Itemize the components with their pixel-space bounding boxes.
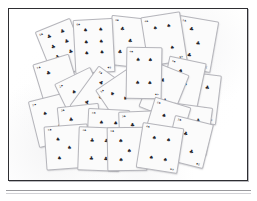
card-index-bottom-right: 2♣ (196, 161, 201, 165)
card-pip: ♣ (50, 44, 56, 51)
card-pip: ♣ (188, 149, 194, 155)
card-pip: ♠ (57, 156, 62, 162)
card-index-top-left: 2♣ (177, 120, 182, 124)
card-pip: ♣ (46, 34, 52, 41)
card-face: ♠♠♠♠♠♠6♠6♠ (74, 19, 115, 73)
card-pip: ♣ (46, 70, 52, 76)
playing-card: ♠♠♠♠♠♠6♠6♠ (73, 18, 116, 74)
card-pip: ♠ (113, 121, 118, 126)
card-pip: ♠ (163, 157, 168, 163)
card-index-top-left: 3♣ (122, 116, 126, 119)
card-face: ♠♠♠♠4♠4♠ (127, 48, 162, 99)
card-pip: ♠ (148, 80, 153, 85)
card-pip: ♣ (90, 138, 95, 143)
card-index-top-left: 3♠ (110, 131, 114, 134)
card-pip: ♠ (136, 57, 141, 62)
figure-root: ♣♣♣♣♣♣6♣6♣♠♠♠♠♠♠6♠6♠♣♣♣3♣3♣♠♠♠♠4♠4♠♣♣♣3♣… (0, 0, 257, 201)
card-pip: ♣ (69, 117, 74, 123)
card-index-top-left: 2♠ (59, 85, 64, 89)
card-index-top-left: 4♠ (146, 127, 150, 130)
card-index-top-left: 3♠ (171, 61, 175, 64)
card-index-top-left: 4♣ (82, 130, 86, 133)
photo-canvas: ♣♣♣♣♣♣6♣6♣♠♠♠♠♠♠6♠6♠♣♣♣3♣3♣♠♠♠♠4♠4♠♣♣♣3♣… (9, 9, 247, 180)
card-pip: ♠ (99, 120, 104, 125)
card-pip: ♠ (83, 28, 88, 33)
card-pip: ♠ (166, 24, 171, 30)
card-index-bottom-right: 6♠ (107, 65, 111, 68)
card-index-bottom-right: 4♠ (155, 92, 159, 95)
card-pip: ♠ (149, 154, 154, 160)
card-pip: ♠ (152, 135, 157, 141)
card-pip: ♠ (42, 110, 48, 116)
card-pip: ♠ (161, 113, 167, 119)
card-index-top-left: 2♠ (156, 102, 161, 106)
card-pip: ♠ (170, 44, 175, 50)
card-pip: ♣ (128, 38, 133, 44)
card-pip: ♣ (195, 41, 200, 47)
card-index-top-left: 4♠ (92, 112, 96, 115)
card-index-top-left: 3♣ (115, 20, 119, 23)
card-index-top-left: 3♠ (48, 130, 52, 133)
card-index-top-left: 2♣ (37, 67, 42, 71)
card-pip: ♠ (99, 39, 104, 44)
card-pip: ♣ (118, 49, 123, 55)
card-pip: ♠ (119, 157, 124, 162)
card-pip: ♠ (127, 148, 132, 153)
card-index-top-left: 4♠ (145, 21, 149, 24)
card-pip: ♠ (118, 138, 123, 143)
card-index-bottom-right: 4♠ (170, 166, 174, 169)
playing-card: ♠♠♠♠4♠4♠ (126, 47, 163, 100)
card-face: ♠♠♠♠4♠4♠ (137, 123, 183, 173)
card-pip: ♣ (64, 38, 70, 45)
card-pip: ♠ (84, 51, 89, 56)
card-pip: ♠ (153, 26, 158, 32)
card-pip: ♠ (148, 57, 153, 62)
card-pip: ♠ (67, 145, 72, 151)
card-index-top-left: 5♣ (98, 71, 103, 76)
card-pip: ♠ (166, 137, 171, 143)
card-pip: ♠ (135, 80, 140, 85)
card-pip: ♠ (109, 91, 116, 98)
card-index-top-left: 3♠ (100, 90, 105, 94)
card-pip: ♠ (56, 136, 61, 142)
card-index-top-left: 3♣ (61, 111, 65, 114)
card-pip: ♠ (100, 50, 105, 55)
bottom-rule (6, 190, 251, 191)
card-index-top-left: 6♣ (39, 34, 44, 38)
card-pip: ♣ (60, 28, 66, 35)
card-pip: ♣ (89, 156, 94, 161)
playing-card: ♠♠♠♠4♠4♠ (136, 122, 185, 174)
card-pip: ♣ (204, 85, 209, 91)
card-pip: ♠ (98, 27, 103, 32)
photo-frame: ♣♣♣♣♣♣6♣6♣♠♠♠♠♠♠6♠6♠♣♣♣3♣3♣♠♠♠♠4♠4♠♣♣♣3♣… (8, 8, 248, 181)
bottom-rule-secondary (6, 193, 251, 194)
card-pip: ♣ (120, 26, 125, 32)
card-index-top-left: 6♠ (76, 25, 80, 28)
card-index-top-left: 3♣ (182, 20, 186, 23)
card-index-top-left: 4♠ (129, 51, 133, 54)
card-index-top-left: 2♠ (32, 104, 37, 108)
card-pip: ♣ (189, 26, 194, 32)
card-pip: ♠ (84, 40, 89, 45)
